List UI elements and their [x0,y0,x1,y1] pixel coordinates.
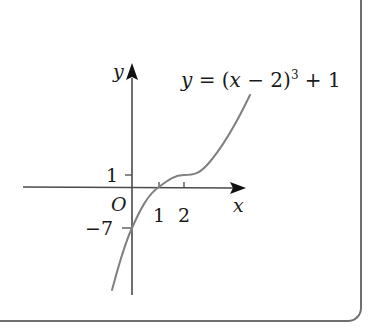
equation-rest: − 2) [241,68,291,92]
y-tick-label-minus7: −7 [85,217,113,239]
x-axis [23,187,234,188]
equation-x: x [230,68,241,92]
x-axis-label: x [233,194,244,216]
equation-exponent: 3 [291,68,299,82]
equation-tail: + 1 [299,68,341,92]
equation-y: y [180,68,193,92]
x-tick-label-1: 1 [153,204,165,226]
x-tick-label-2: 2 [178,204,190,226]
equation-equals: = ( [192,68,229,92]
cubic-graph: y x O 1 2 1 −7 y = (x − 2)3 + 1 [0,0,370,329]
equation-label: y = (x − 2)3 + 1 [180,68,341,92]
origin-label: O [111,193,127,215]
y-axis-label: y [112,60,124,82]
y-axis-arrow-icon [126,63,138,80]
y-tick-label-1: 1 [106,164,118,186]
